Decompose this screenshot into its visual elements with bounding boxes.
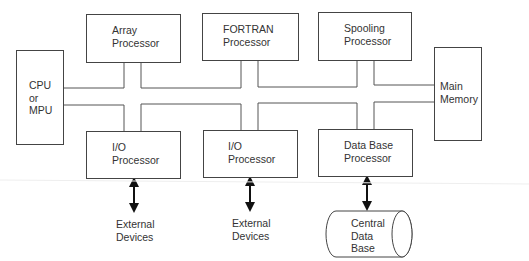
- io-processor-2-label: I/OProcessor: [228, 140, 275, 165]
- array-processor-label: ArrayProcessor: [112, 24, 159, 49]
- spooling-processor-label: SpoolingProcessor: [344, 22, 391, 47]
- fortran-processor-label: FORTRANProcessor: [223, 23, 274, 48]
- database-processor-label: Data BaseProcessor: [344, 139, 393, 164]
- external-devices-2-label: ExternalDevices: [232, 217, 271, 242]
- io-processor-1-label: I/OProcessor: [112, 141, 159, 166]
- external-devices-1-label: ExternalDevices: [116, 218, 155, 243]
- main-memory-label: MainMemory: [440, 80, 478, 105]
- central-database-label: CentralDataBase: [351, 217, 385, 255]
- system-bus: [63, 60, 434, 131]
- cpu-label: CPUorMPU: [29, 79, 52, 117]
- divider: [0, 180, 529, 184]
